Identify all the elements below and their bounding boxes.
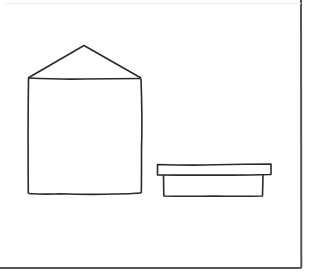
tray-shape — [158, 164, 272, 196]
house-right-wall — [141, 79, 142, 194]
sketch-drawing — [0, 0, 310, 276]
tray-lid — [158, 164, 272, 175]
tray-base — [164, 175, 264, 196]
sketch-canvas — [0, 0, 310, 276]
house-roof — [28, 46, 141, 79]
top-faint-rule — [6, 3, 301, 4]
frame — [0, 0, 301, 268]
house-shape — [28, 46, 142, 195]
house-roof-base — [28, 78, 141, 79]
house-floor — [28, 193, 141, 194]
